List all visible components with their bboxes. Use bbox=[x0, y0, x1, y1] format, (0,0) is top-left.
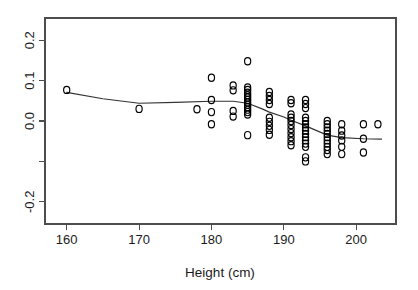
data-point-marker bbox=[266, 131, 272, 138]
data-point-marker bbox=[136, 105, 142, 112]
smoother-path bbox=[67, 92, 382, 139]
y-tick-label: -0.2 bbox=[22, 191, 37, 213]
data-point-marker bbox=[208, 109, 214, 116]
x-tick-label: 200 bbox=[345, 232, 367, 247]
data-point-marker bbox=[245, 132, 251, 139]
lowess-smoother-line bbox=[67, 92, 382, 139]
data-point-marker bbox=[208, 121, 214, 128]
chart-container: 0.20.10.0-0.2 160170180190200 Height (cm… bbox=[0, 0, 418, 290]
x-tick-label: 170 bbox=[128, 232, 150, 247]
scatter-points bbox=[64, 58, 381, 165]
data-point-marker bbox=[360, 121, 366, 128]
data-point-marker bbox=[375, 121, 381, 128]
y-tick-label: 0.1 bbox=[22, 72, 37, 90]
y-tick-label: 0.0 bbox=[22, 112, 37, 130]
x-axis-ticks: 160170180190200 bbox=[56, 224, 367, 247]
data-point-marker bbox=[339, 151, 345, 158]
y-tick-label: 0.2 bbox=[22, 31, 37, 49]
data-point-marker bbox=[245, 58, 251, 65]
data-point-marker bbox=[360, 149, 366, 156]
x-tick-label: 190 bbox=[273, 232, 295, 247]
x-tick-label: 160 bbox=[56, 232, 78, 247]
scatter-plot-svg: 0.20.10.0-0.2 160170180190200 Height (cm… bbox=[0, 0, 418, 290]
data-point-marker bbox=[208, 74, 214, 81]
x-tick-label: 180 bbox=[201, 232, 223, 247]
x-axis-title: Height (cm) bbox=[185, 265, 255, 280]
data-point-marker bbox=[208, 96, 214, 103]
data-point-marker bbox=[230, 87, 236, 94]
data-point-marker bbox=[194, 106, 200, 113]
y-axis-ticks: 0.20.10.0-0.2 bbox=[22, 31, 45, 213]
